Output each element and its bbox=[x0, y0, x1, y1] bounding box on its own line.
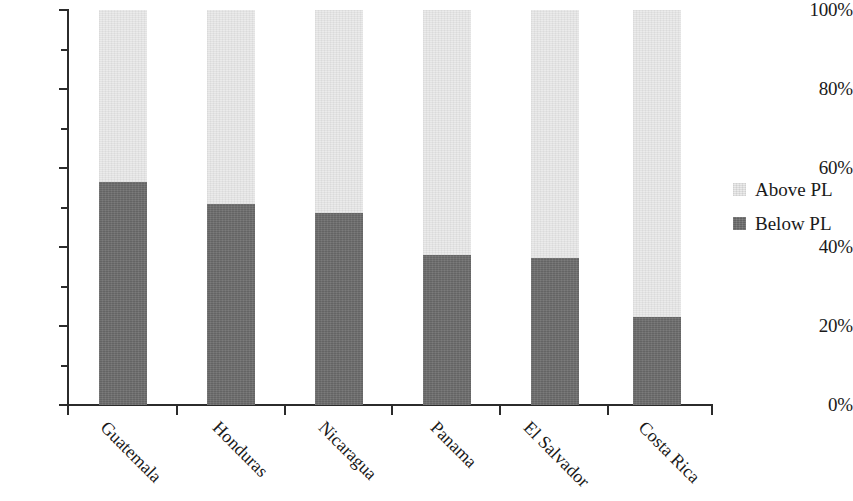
x-axis-label-costa-rica: Costa Rica bbox=[635, 418, 703, 486]
bar-panama[interactable] bbox=[423, 10, 471, 405]
x-axis-label-el-salvador: El Salvador bbox=[520, 418, 592, 490]
x-tick-panama bbox=[499, 406, 501, 415]
y-tick-label-0: 0% bbox=[797, 395, 853, 414]
y-tick-60 bbox=[59, 167, 68, 169]
bar-segment-below-pl bbox=[315, 213, 363, 405]
legend-item-above-pl[interactable]: Above PL bbox=[733, 172, 853, 206]
bar-segment-below-pl bbox=[207, 204, 255, 405]
legend-label-above-pl: Above PL bbox=[755, 180, 833, 199]
bar-segment-below-pl bbox=[99, 182, 147, 405]
x-tick-nicaragua bbox=[391, 406, 393, 415]
x-tick-guatemala bbox=[176, 406, 178, 415]
y-tick-100 bbox=[59, 9, 68, 11]
legend-label-below-pl: Below PL bbox=[755, 214, 832, 233]
chart-legend: Above PL Below PL bbox=[733, 172, 853, 240]
y-tick-label-20: 20% bbox=[797, 316, 853, 335]
bar-el-salvador[interactable] bbox=[531, 10, 579, 405]
legend-item-below-pl[interactable]: Below PL bbox=[733, 206, 853, 240]
x-tick-start bbox=[67, 406, 69, 415]
x-tick-end bbox=[711, 406, 713, 415]
y-tick-minor-50 bbox=[61, 207, 68, 209]
x-tick-elsalvador bbox=[607, 406, 609, 415]
bar-honduras[interactable] bbox=[207, 10, 255, 405]
x-axis-label-guatemala: Guatemala bbox=[97, 418, 165, 486]
y-tick-label-80: 80% bbox=[797, 79, 853, 98]
y-tick-minor-70 bbox=[61, 128, 68, 130]
y-tick-minor-90 bbox=[61, 49, 68, 51]
x-axis-label-nicaragua: Nicaragua bbox=[315, 418, 380, 483]
y-tick-minor-30 bbox=[61, 286, 68, 288]
plot-area bbox=[68, 10, 712, 405]
stacked-bar-chart: 100% 80% 60% 40% 20% 0% bbox=[0, 0, 853, 501]
bar-segment-below-pl bbox=[423, 255, 471, 405]
bar-segment-above-pl bbox=[99, 10, 147, 182]
y-tick-80 bbox=[59, 88, 68, 90]
bar-segment-above-pl bbox=[531, 10, 579, 258]
bar-nicaragua[interactable] bbox=[315, 10, 363, 405]
y-tick-minor-10 bbox=[61, 365, 68, 367]
bar-segment-above-pl bbox=[207, 10, 255, 204]
x-axis-label-honduras: Honduras bbox=[209, 418, 271, 480]
legend-swatch-icon-below-pl bbox=[733, 217, 746, 230]
x-axis-label-panama: Panama bbox=[427, 418, 480, 471]
bar-segment-below-pl bbox=[531, 258, 579, 405]
bar-segment-above-pl bbox=[633, 10, 681, 317]
legend-swatch-icon-above-pl bbox=[733, 183, 746, 196]
y-tick-40 bbox=[59, 246, 68, 248]
y-tick-20 bbox=[59, 325, 68, 327]
x-tick-honduras bbox=[284, 406, 286, 415]
bar-guatemala[interactable] bbox=[99, 10, 147, 405]
bar-segment-above-pl bbox=[423, 10, 471, 255]
bar-costa-rica[interactable] bbox=[633, 10, 681, 405]
bar-segment-above-pl bbox=[315, 10, 363, 213]
y-tick-label-100: 100% bbox=[797, 0, 853, 19]
bar-segment-below-pl bbox=[633, 317, 681, 405]
